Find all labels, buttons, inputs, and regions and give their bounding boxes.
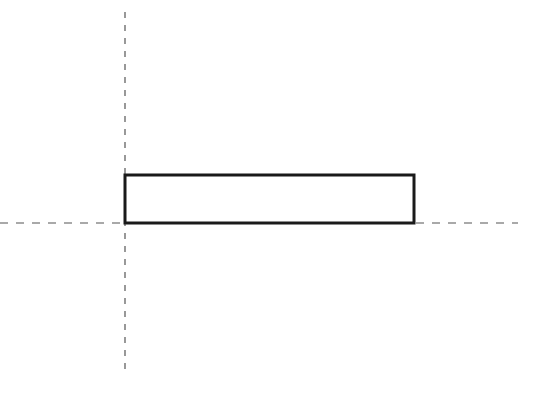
rectangle-shape [125,175,414,223]
diagram-canvas [0,0,542,400]
